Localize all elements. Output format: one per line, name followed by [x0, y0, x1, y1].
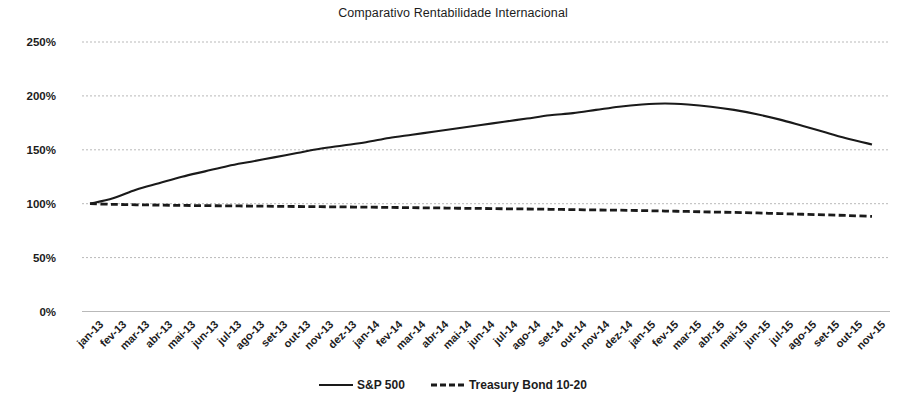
legend-item[interactable]: Treasury Bond 10-20	[431, 378, 587, 392]
legend-label: Treasury Bond 10-20	[469, 378, 587, 392]
legend-swatch-dashed	[431, 379, 465, 391]
legend-label: S&P 500	[357, 378, 405, 392]
x-axis-tick-labels: jan-13fev-13mar-13abr-13mai-13jun-13jul-…	[0, 0, 906, 411]
chart-container: Comparativo Rentabilidade Internacional …	[0, 0, 906, 411]
legend-swatch-solid	[319, 379, 353, 391]
chart-legend: S&P 500Treasury Bond 10-20	[0, 378, 906, 392]
legend-item[interactable]: S&P 500	[319, 378, 405, 392]
